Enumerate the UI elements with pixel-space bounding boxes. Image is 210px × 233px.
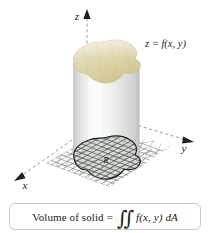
y-axis-label: y	[181, 142, 187, 154]
region-label: R	[102, 155, 109, 165]
z-axis-label: z	[74, 10, 80, 22]
x-axis-label: x	[22, 179, 28, 191]
formula-equals-sign: =	[107, 211, 113, 223]
surface-function-label: z = f(x, y)	[144, 38, 186, 50]
formula-box: Volume of solid = ∬ f(x, y) dA	[9, 203, 201, 230]
formula-differential: dA	[165, 211, 177, 223]
formula-integrand: f(x, y)	[136, 211, 162, 223]
y-axis-line	[133, 124, 183, 139]
solid-volume-diagram: z y x z = f(x, y) R	[0, 0, 210, 233]
z-axis-arrowhead	[83, 9, 90, 19]
figure-container: z y x z = f(x, y) R Volume of solid = ∬ …	[0, 0, 210, 233]
formula-lead-text: Volume of solid	[32, 211, 104, 223]
formula-expression: Volume of solid = ∬ f(x, y) dA	[32, 211, 178, 223]
